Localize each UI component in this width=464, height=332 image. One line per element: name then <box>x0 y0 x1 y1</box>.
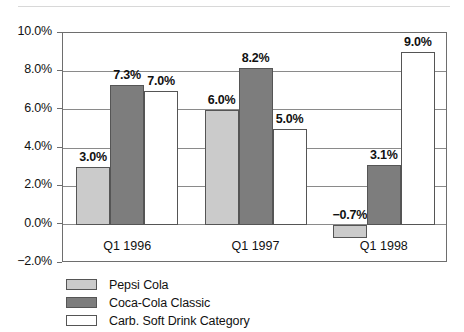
plot-area: 3.0%7.3%7.0%6.0%8.2%5.0%−0.7%3.1%9.0% Q1… <box>62 32 447 262</box>
legend-item-label: Coca-Cola Classic <box>109 296 210 310</box>
chart-legend: Pepsi ColaCoca-Cola ClassicCarb. Soft Dr… <box>66 276 366 330</box>
bar-q1-1998-series-2 <box>367 165 401 224</box>
bar-q1-1996-series-1 <box>76 167 110 225</box>
x-axis-category-label: Q1 1998 <box>320 239 448 253</box>
legend-swatch-icon <box>66 315 97 326</box>
bar-value-label: 7.0% <box>134 74 188 88</box>
bar-q1-1997-series-3 <box>273 129 307 225</box>
bar-q1-1997-series-1 <box>205 110 239 225</box>
bar-q1-1997-series-2 <box>239 68 273 225</box>
bar-value-label: 5.0% <box>263 112 317 126</box>
y-axis-tick-label: 6.0% <box>0 101 52 115</box>
legend-swatch-icon <box>66 297 97 308</box>
x-axis-category-label: Q1 1997 <box>191 239 319 253</box>
bar-value-label: 9.0% <box>391 35 445 49</box>
legend-item-label: Pepsi Cola <box>109 278 168 292</box>
y-axis-tick-label: 0.0% <box>0 216 52 230</box>
bar-q1-1998-series-3 <box>401 52 435 225</box>
legend-item-2[interactable]: Coca-Cola Classic <box>66 294 366 311</box>
legend-swatch-icon <box>66 279 97 290</box>
y-axis-tick-label: 10.0% <box>0 24 52 38</box>
bar-q1-1996-series-2 <box>110 85 144 225</box>
legend-item-1[interactable]: Pepsi Cola <box>66 276 366 293</box>
legend-item-3[interactable]: Carb. Soft Drink Category <box>66 312 366 329</box>
bar-q1-1996-series-3 <box>144 91 178 225</box>
y-axis-tick-label: 8.0% <box>0 62 52 76</box>
bar-q1-1998-series-1 <box>333 225 367 238</box>
y-axis-tick-label: 4.0% <box>0 139 52 153</box>
bar-value-label: 8.2% <box>229 51 283 65</box>
y-axis-tick-label: −2.0% <box>0 254 52 268</box>
y-axis-tick-label: 2.0% <box>0 177 52 191</box>
legend-item-label: Carb. Soft Drink Category <box>109 314 250 328</box>
bar-chart: 10.0%8.0%6.0%4.0%2.0%0.0%−2.0% 3.0%7.3%7… <box>0 0 464 332</box>
x-axis-category-label: Q1 1996 <box>63 239 191 253</box>
